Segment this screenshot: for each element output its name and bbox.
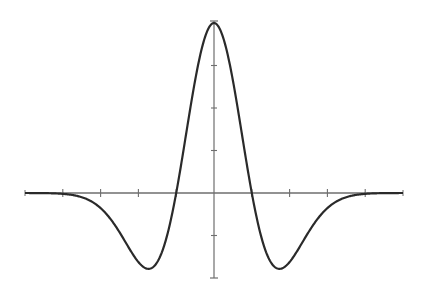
- chart: [0, 0, 425, 290]
- axes: [25, 21, 403, 278]
